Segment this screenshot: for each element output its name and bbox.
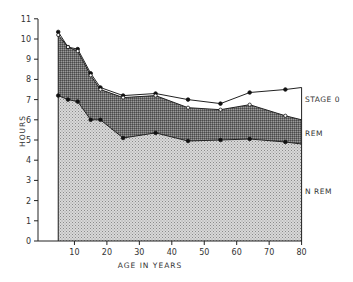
rem-marker [219,108,222,111]
x-tick-label: 20 [102,248,112,257]
rem-marker [89,74,92,77]
y-tick-label: 1 [26,217,31,226]
nrem-marker [89,118,93,122]
nrem-marker [99,118,103,122]
rem-marker [154,94,157,97]
rem-marker [66,45,69,48]
y-tick-label: 3 [26,176,31,185]
y-axis-label: HOURS [18,115,27,147]
nrem-marker [186,139,190,143]
y-tick-label: 9 [26,55,31,64]
nrem-marker [284,140,288,144]
rem-marker [284,114,287,117]
x-tick-label: 50 [199,248,209,257]
x-tick-label: 80 [297,248,307,257]
x-tick-label: 30 [134,248,144,257]
stage0-label: STAGE 0 [305,95,340,104]
stage0-marker [186,98,190,102]
y-tick-label: 11 [21,15,31,24]
y-tick-label: 0 [26,237,31,246]
nrem-marker [219,138,223,142]
x-axis-label: AGE IN YEARS [118,261,183,270]
nrem-marker [248,137,252,141]
x-tick-label: 10 [69,248,79,257]
x-tick-label: 60 [232,248,242,257]
rem-marker [99,88,102,91]
y-tick-label: 7 [26,96,31,105]
x-tick-label: 70 [264,248,274,257]
x-ticks: 1020304050607080 [69,241,306,257]
stage0-marker [248,91,252,95]
sleep-by-age-chart: 01234567891011 1020304050607080 HOURS AG… [0,0,353,282]
nrem-label: N REM [305,187,332,196]
stacked-areas [58,35,301,241]
y-tick-label: 10 [21,35,31,44]
nrem-marker [56,94,60,98]
y-tick-label: 4 [26,156,31,165]
y-tick-label: 2 [26,197,31,206]
rem-marker [76,50,79,53]
x-tick-label: 40 [167,248,177,257]
y-tick-label: 8 [26,75,31,84]
stage0-marker [284,88,288,92]
rem-marker [186,106,189,109]
nrem-marker [121,136,125,140]
nrem-marker [154,131,158,135]
rem-label: REM [305,129,323,138]
rem-marker [122,96,125,99]
nrem-marker [76,100,80,104]
rem-marker [248,103,251,106]
stage0-marker [219,102,223,106]
nrem-marker [66,98,70,102]
rem-marker [57,33,60,36]
